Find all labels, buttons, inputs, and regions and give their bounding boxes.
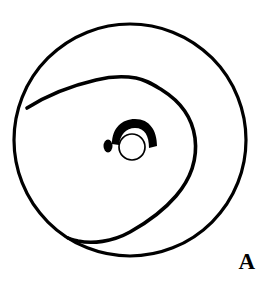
- oval-dot-marker: [104, 140, 113, 153]
- panel-label: A: [238, 250, 255, 273]
- open-circle-marker: [119, 134, 145, 160]
- figure-panel: A: [0, 0, 269, 293]
- figure-diagram: [0, 0, 269, 293]
